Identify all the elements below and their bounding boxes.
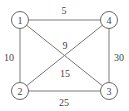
edge-weight-1-4: 5 (62, 5, 67, 16)
node-3: 3 (101, 83, 118, 100)
edge-weight-4-2: 9 (63, 40, 68, 51)
node-label: 3 (107, 86, 112, 97)
node-label: 4 (107, 15, 112, 26)
edge-weight-1-2: 10 (4, 52, 14, 63)
edge-weight-4-3: 30 (114, 52, 124, 63)
node-4: 4 (101, 12, 118, 29)
graph-diagram: 5 10 30 25 15 9 1 2 3 4 (0, 0, 129, 111)
edge-weight-1-3: 15 (60, 68, 70, 79)
node-2: 2 (12, 83, 29, 100)
node-label: 1 (18, 15, 23, 26)
node-label: 2 (18, 86, 23, 97)
node-1: 1 (12, 12, 29, 29)
edge-weight-2-3: 25 (59, 97, 69, 108)
